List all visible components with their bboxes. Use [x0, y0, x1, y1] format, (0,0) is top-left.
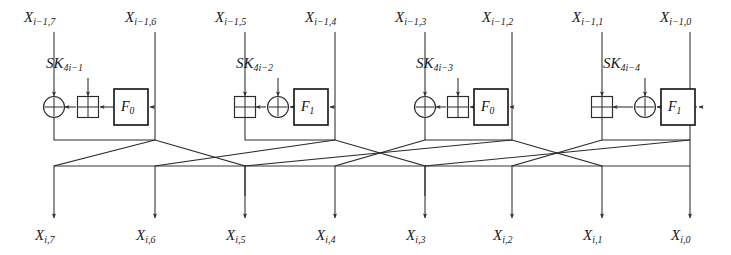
input-label-7: Xi−1,7 [24, 10, 55, 27]
output-label-6: Xi,6 [136, 228, 155, 245]
subkey-label-4: SK4i−4 [603, 56, 640, 73]
subkey-label-1: SK4i−1 [46, 56, 83, 73]
perm-path-from-1 [602, 118, 690, 196]
perm-path-from-6 [54, 140, 155, 196]
perm-path-from-2 [245, 140, 512, 196]
subkey-label-3: SK4i−3 [416, 56, 453, 73]
output-label-7: Xi,7 [35, 228, 54, 245]
perm-path-to-4 [335, 140, 425, 196]
function-label-3: F0 [481, 99, 494, 116]
output-label-5: Xi,5 [226, 228, 245, 245]
input-label-4: Xi−1,4 [305, 10, 336, 27]
output-label-1: Xi,1 [583, 228, 602, 245]
input-label-6: Xi−1,6 [125, 10, 156, 27]
output-label-2: Xi,2 [493, 228, 512, 245]
output-label-3: Xi,3 [406, 228, 425, 245]
perm-path-from-0 [425, 140, 690, 196]
function-label-2: F1 [301, 99, 314, 116]
cipher-round-diagram: Xi−1,7 Xi−1,6 Xi−1,5 Xi−1,4 Xi−1,3 Xi−1,… [0, 0, 731, 255]
input-label-0: Xi−1,0 [660, 10, 691, 27]
input-label-5: Xi−1,5 [215, 10, 246, 27]
function-label-1: F0 [121, 99, 134, 116]
function-label-4: F1 [668, 99, 681, 116]
output-label-0: Xi,0 [671, 228, 690, 245]
perm-path-to-2 [512, 140, 602, 196]
input-label-2: Xi−1,2 [482, 10, 513, 27]
input-label-1: Xi−1,1 [572, 10, 603, 27]
diagram-wiring-layer [0, 0, 731, 255]
input-label-3: Xi−1,3 [395, 10, 426, 27]
output-label-4: Xi,4 [316, 228, 335, 245]
subkey-label-2: SK4i−2 [236, 56, 273, 73]
